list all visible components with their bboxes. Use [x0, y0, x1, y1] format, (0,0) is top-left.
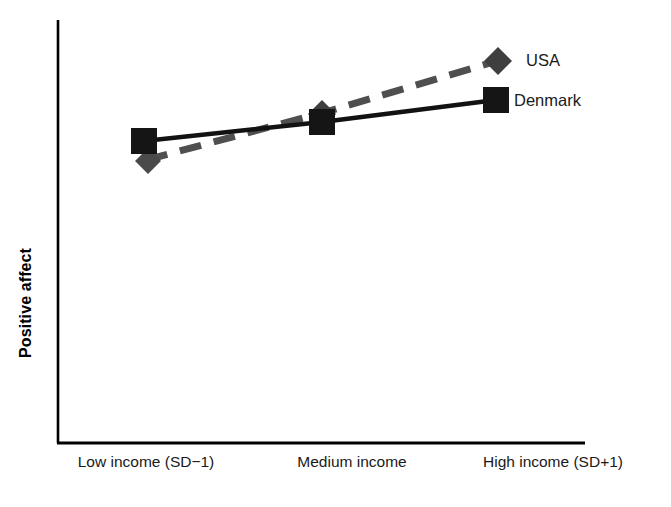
chart-figure: Positive affect Low income (SD−1) Medium… [0, 0, 671, 507]
x-tick-label-medium-income: Medium income [248, 452, 456, 472]
diamond-marker [484, 47, 512, 75]
square-marker [483, 87, 509, 113]
y-axis-title: Positive affect [13, 173, 39, 433]
square-marker [309, 109, 335, 135]
x-tick-label-high-income: High income (SD+1) [440, 452, 666, 472]
series-label-denmark: Denmark [514, 90, 581, 110]
x-tick-label-low-income: Low income (SD−1) [34, 452, 258, 472]
line-chart-plot [0, 0, 671, 507]
series-label-usa: USA [526, 50, 560, 70]
square-marker [131, 128, 157, 154]
